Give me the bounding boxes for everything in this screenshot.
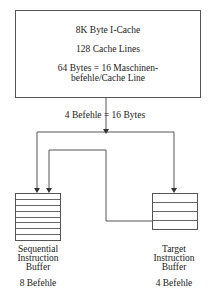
cache-line-size-1: 64 Bytes = 16 Maschinen- bbox=[15, 63, 201, 73]
sequential-buffer bbox=[15, 193, 61, 241]
cache-title: 8K Byte I-Cache bbox=[15, 25, 201, 35]
target-label-3: Buffer bbox=[136, 262, 208, 272]
target-capacity: 4 Befehle bbox=[136, 278, 208, 288]
sequential-label-3: Buffer bbox=[0, 262, 76, 272]
transfer-label: 4 Befehle = 16 Bytes bbox=[45, 110, 165, 120]
cache-line-size-2: befehle/Cache Line bbox=[15, 73, 201, 83]
sequential-capacity: 8 Befehle bbox=[0, 278, 76, 288]
cache-lines: 128 Cache Lines bbox=[15, 44, 201, 54]
icache-box bbox=[15, 10, 201, 98]
target-buffer bbox=[152, 193, 198, 230]
